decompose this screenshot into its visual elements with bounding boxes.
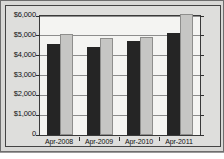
x-axis-label-group: Apr-2008Apr-2009Apr-2010Apr-2011 [39, 137, 201, 149]
y-axis-tick-label: $3,000 [14, 71, 36, 79]
bar [87, 47, 100, 135]
bar [167, 33, 180, 135]
x-axis-tick-label: Apr-2008 [39, 137, 79, 147]
x-axis-tick-label: Apr-2010 [119, 137, 159, 147]
y-axis-tick-left [36, 35, 40, 36]
bar [180, 14, 193, 135]
y-axis-tick-label: $4,000 [14, 51, 36, 59]
y-axis-tick-left [36, 115, 40, 116]
y-axis-tick-right [200, 115, 204, 116]
y-axis-tick-label: $1,000 [14, 110, 36, 118]
y-axis-tick-right [200, 135, 204, 136]
y-axis-tick-right [200, 95, 204, 96]
y-axis-tick-right [200, 75, 204, 76]
y-axis-tick-left [36, 16, 40, 17]
y-axis-label-group: 0$1,000$2,000$3,000$4,000$5,000$6,000 [6, 15, 36, 136]
y-axis-tick-left [36, 95, 40, 96]
bar [100, 38, 113, 135]
y-axis-tick-right [200, 35, 204, 36]
bar [60, 34, 73, 135]
plot-area [39, 15, 201, 136]
y-axis-tick-right [200, 16, 204, 17]
bottom-strip [0, 152, 224, 159]
y-axis-tick-label: $5,000 [14, 31, 36, 39]
y-axis-tick-left [36, 135, 40, 136]
y-axis-tick-left [36, 55, 40, 56]
bar [127, 41, 140, 135]
x-axis-tick-label: Apr-2011 [159, 137, 199, 147]
bar [47, 44, 60, 135]
chart-panel: 0$1,000$2,000$3,000$4,000$5,000$6,000 Ap… [5, 5, 221, 147]
chart-screenshot: 0$1,000$2,000$3,000$4,000$5,000$6,000 Ap… [0, 0, 224, 159]
bar [140, 37, 153, 135]
x-axis-tick-label: Apr-2009 [79, 137, 119, 147]
gridline [40, 16, 200, 17]
y-axis-tick-right [200, 55, 204, 56]
y-axis-tick-label: $6,000 [14, 11, 36, 19]
y-axis-tick-left [36, 75, 40, 76]
outer-frame: 0$1,000$2,000$3,000$4,000$5,000$6,000 Ap… [0, 0, 224, 152]
y-axis-tick-label: $2,000 [14, 90, 36, 98]
